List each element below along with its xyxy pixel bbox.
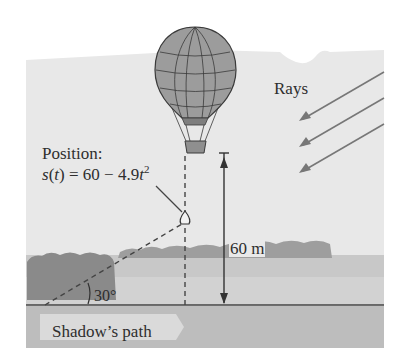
balloon-shadow-diagram: Position: s(t) = 60 − 4.9t2 Rays 60 m 30…	[0, 0, 399, 362]
height-label: 60 m	[229, 240, 265, 257]
position-equation: s(t) = 60 − 4.9t2	[42, 164, 149, 183]
eq-var: t	[54, 165, 59, 184]
eq-exponent: 2	[144, 163, 150, 175]
shadow-path-label: Shadow’s path	[52, 323, 152, 340]
basket	[185, 141, 206, 153]
eq-func: s	[42, 165, 49, 184]
eq-rhs: = 60 − 4.9	[65, 165, 139, 184]
rays-label: Rays	[274, 80, 308, 97]
angle-label: 30°	[94, 288, 116, 304]
position-title: Position:	[42, 145, 102, 162]
